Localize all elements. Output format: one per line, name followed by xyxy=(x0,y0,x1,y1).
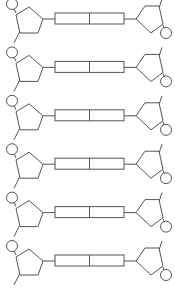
left-sugar-pentagon-icon xyxy=(16,7,43,33)
right-phosphate-circle-icon xyxy=(161,124,172,135)
left-phosphate-circle-icon xyxy=(7,241,18,252)
right-phosphate-circle-icon xyxy=(161,76,172,87)
left-phosphate-circle-icon xyxy=(7,192,18,203)
left-phosphate-circle-icon xyxy=(7,0,18,10)
left-backbone-line xyxy=(14,79,20,91)
right-sugar-pentagon-icon xyxy=(136,6,163,33)
dna-diagram xyxy=(0,0,175,294)
left-phosphate-circle-icon xyxy=(7,47,18,58)
right-sugar-pentagon-icon xyxy=(136,103,163,130)
right-phosphate-circle-icon xyxy=(161,173,172,184)
right-phosphate-circle-icon xyxy=(161,28,172,39)
left-backbone-line xyxy=(14,176,20,188)
left-phosphate-circle-icon xyxy=(7,95,18,106)
left-backbone-line xyxy=(14,273,20,285)
left-backbone-line xyxy=(14,128,20,140)
left-sugar-pentagon-icon xyxy=(16,152,43,178)
right-phosphate-circle-icon xyxy=(161,270,172,281)
right-sugar-pentagon-icon xyxy=(136,248,163,275)
left-backbone-line xyxy=(14,225,20,237)
left-phosphate-circle-icon xyxy=(7,144,18,155)
right-sugar-pentagon-icon xyxy=(136,151,163,178)
left-sugar-pentagon-icon xyxy=(16,249,43,275)
left-sugar-pentagon-icon xyxy=(16,201,43,227)
dna-ladder-svg xyxy=(0,0,175,294)
right-sugar-pentagon-icon xyxy=(136,54,163,81)
left-sugar-pentagon-icon xyxy=(16,104,43,130)
right-sugar-pentagon-icon xyxy=(136,200,163,227)
left-backbone-line xyxy=(14,31,20,43)
left-sugar-pentagon-icon xyxy=(16,55,43,81)
right-phosphate-circle-icon xyxy=(161,221,172,232)
